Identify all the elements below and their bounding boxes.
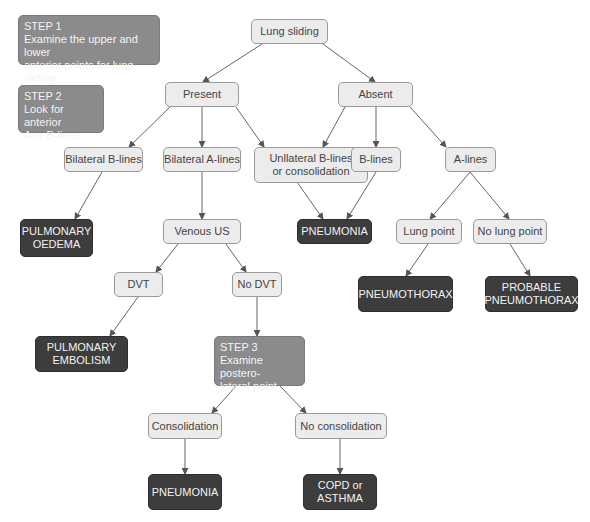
step-3-text-line2: lateral point [220, 380, 299, 393]
node-lung-point: Lung point [396, 219, 462, 244]
node-absent: Absent [338, 82, 413, 107]
diagnosis-label: PNEUMONIA [301, 225, 368, 238]
diagnosis-label-line2: PNEUMOTHORAX [484, 294, 578, 307]
node-dvt: DVT [114, 272, 163, 297]
step-2-title: STEP 2 [24, 90, 98, 103]
step-3-box: STEP 3 Examine postero- lateral point [214, 336, 305, 386]
node-label: B-lines [359, 153, 393, 166]
step-1-title: STEP 1 [24, 20, 154, 33]
node-label-line1: Unllateral B-lines [269, 152, 352, 165]
step-1-text-line1: Examine the upper and lower [24, 33, 154, 59]
diagnosis-pneumonia-bottom: PNEUMONIA [148, 474, 222, 510]
node-label: Bilateral A-lines [164, 153, 240, 166]
step-3-title: STEP 3 [220, 341, 299, 354]
step-1-text-line2: anterior points for lung sliding [24, 59, 154, 85]
node-consolidation: Consolidation [148, 413, 222, 439]
node-b-lines: B-lines [351, 147, 401, 172]
node-label: Venous US [174, 225, 229, 238]
node-label: A-lines [454, 153, 488, 166]
node-venous-us: Venous US [163, 219, 241, 244]
node-label: No lung point [478, 225, 543, 238]
diagnosis-label-line1: COPD or [317, 479, 363, 492]
node-bilateral-b-lines: Bilateral B-lines [64, 147, 143, 172]
diagnosis-pulmonary-embolism: PULMONARY EMBOLISM [35, 336, 128, 372]
diagnosis-label: PNEUMOTHORAX [358, 288, 452, 301]
step-2-box: STEP 2 Look for anterior A or B-lines [18, 85, 104, 133]
diagnosis-probable-pneumothorax: PROBABLE PNEUMOTHORAX [485, 276, 578, 312]
node-present: Present [165, 82, 239, 107]
step-3-text-line1: Examine postero- [220, 354, 299, 380]
diagnosis-label-line2: ASTHMA [317, 492, 363, 505]
diagnosis-label-line1: PULMONARY [47, 341, 116, 354]
step-2-text-line1: Look for anterior [24, 103, 98, 129]
node-label: No consolidation [300, 420, 381, 433]
node-label: Consolidation [152, 420, 219, 433]
step-2-text-line2: A or B-lines [24, 129, 98, 142]
node-no-dvt: No DVT [232, 272, 282, 297]
diagnosis-pneumonia-top: PNEUMONIA [297, 219, 372, 244]
node-label: Absent [358, 88, 392, 101]
diagnosis-label-line1: PULMONARY [22, 225, 91, 238]
diagnosis-pneumothorax: PNEUMOTHORAX [358, 276, 453, 312]
diagnosis-label: PNEUMONIA [152, 486, 219, 499]
node-label: DVT [128, 278, 150, 291]
node-label: Lung point [403, 225, 454, 238]
diagnosis-label-line2: OEDEMA [22, 238, 91, 251]
node-label-line2: or consolidation [269, 165, 352, 178]
node-label: Present [183, 88, 221, 101]
node-a-lines: A-lines [445, 147, 496, 172]
node-lung-sliding: Lung sliding [251, 19, 328, 44]
node-label: Lung sliding [260, 25, 319, 38]
node-label: No DVT [237, 278, 276, 291]
node-bilateral-a-lines: Bilateral A-lines [163, 147, 241, 172]
diagnosis-label-line1: PROBABLE [484, 281, 578, 294]
node-no-lung-point: No lung point [473, 219, 547, 244]
node-no-consolidation: No consolidation [295, 413, 387, 439]
node-label: Bilateral B-lines [65, 153, 141, 166]
step-1-box: STEP 1 Examine the upper and lower anter… [18, 15, 160, 65]
diagnosis-label-line2: EMBOLISM [47, 354, 116, 367]
diagnosis-pulmonary-oedema: PULMONARY OEDEMA [20, 219, 93, 257]
diagnosis-copd-asthma: COPD or ASTHMA [303, 474, 377, 510]
